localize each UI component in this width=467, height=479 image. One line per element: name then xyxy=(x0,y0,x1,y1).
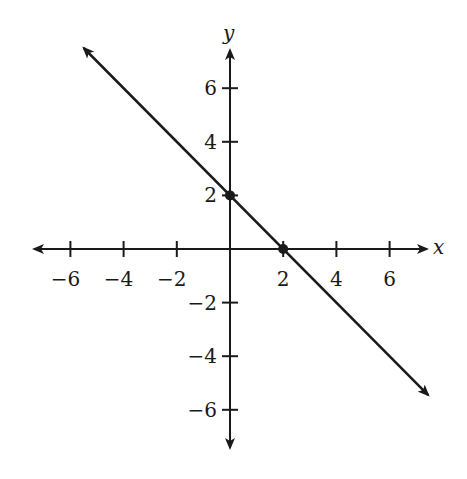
line-y-equals-neg-x-plus-2 xyxy=(84,48,428,395)
axes xyxy=(34,50,427,448)
y-tick-label: −2 xyxy=(188,291,217,315)
y-tick-label: −4 xyxy=(188,344,217,368)
x-tick-label: 6 xyxy=(383,267,396,291)
x-tick-label: −4 xyxy=(104,267,133,291)
line-series xyxy=(84,48,428,395)
y-tick-label: 6 xyxy=(204,76,217,100)
coordinate-plane: −6−4−2246−6−4−2246 x y xyxy=(0,0,467,479)
x-tick-label: 4 xyxy=(330,267,343,291)
x-axis-label: x xyxy=(433,235,444,259)
intercept-point xyxy=(225,190,235,200)
y-tick-label: 4 xyxy=(204,130,217,154)
y-axis-label: y xyxy=(222,21,235,45)
y-tick-label: 2 xyxy=(204,183,217,207)
x-tick-label: −2 xyxy=(157,267,186,291)
x-tick-label: 2 xyxy=(277,267,290,291)
intercept-point xyxy=(278,244,288,254)
x-tick-label: −6 xyxy=(51,267,80,291)
y-tick-label: −6 xyxy=(188,398,217,422)
